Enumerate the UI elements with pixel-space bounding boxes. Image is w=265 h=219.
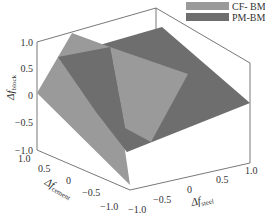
legend-swatch-cf-bm (186, 2, 229, 10)
svg-text:0.5: 0.5 (216, 174, 229, 185)
svg-text:0: 0 (28, 90, 33, 101)
svg-text:0.5: 0.5 (38, 163, 51, 174)
svg-text:−0.5: −0.5 (153, 194, 171, 205)
svg-text:0.5: 0.5 (21, 63, 34, 74)
svg-text:0: 0 (187, 184, 192, 195)
z-axis-label: Δfblock (4, 74, 18, 101)
svg-text:−1.0: −1.0 (100, 201, 118, 212)
legend-label-pm-bm: PM-BM (232, 12, 265, 23)
svg-text:1.0: 1.0 (18, 153, 31, 164)
x-axis-label: Δfsteel (189, 192, 215, 211)
svg-text:−0.5: −0.5 (15, 117, 33, 128)
svg-text:1.0: 1.0 (245, 165, 258, 176)
legend: CF- BM PM-BM (186, 1, 265, 23)
z-axis-ticks: 1.0 0.5 0 −0.5 −1.0 (15, 37, 33, 156)
svg-text:−0.5: −0.5 (82, 187, 100, 198)
svg-text:1.0: 1.0 (21, 37, 34, 48)
legend-swatch-pm-bm (186, 13, 229, 21)
legend-label-cf-bm: CF- BM (232, 1, 265, 12)
svg-text:0: 0 (66, 175, 71, 186)
y-axis-ticks: 1.0 0.5 0 −0.5 −1.0 (18, 153, 118, 212)
surface-plot: 1.0 0.5 0 −0.5 −1.0 Δfblock 1.0 0.5 0 −0… (0, 0, 265, 219)
svg-text:−1.0: −1.0 (128, 204, 146, 215)
